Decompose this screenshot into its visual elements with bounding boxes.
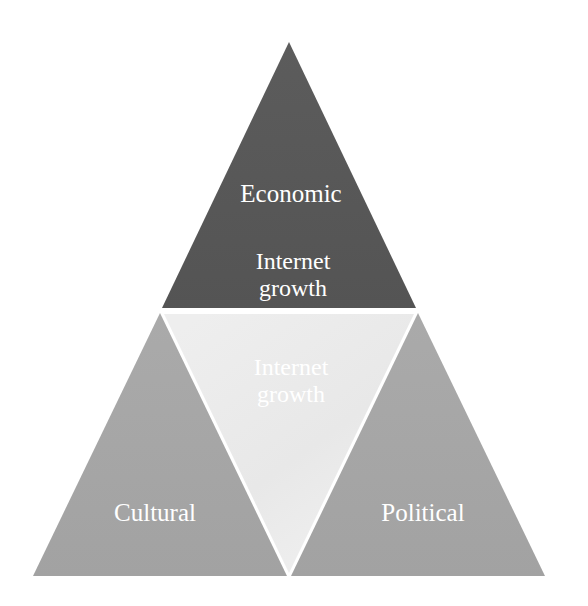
political-label: Political [381,499,464,526]
top-internet-label-line1: Internet [256,248,331,274]
center-internet-label-line2: growth [257,381,325,407]
center-internet-label-line1: Internet [254,354,329,380]
triangle-diagram-svg: Cultural Political Internet growth Econo… [0,0,588,606]
triangle-diagram: Cultural Political Internet growth Econo… [0,0,588,606]
cultural-label: Cultural [114,499,196,526]
top-internet-label-line2: growth [259,275,327,301]
economic-label: Economic [240,180,341,207]
